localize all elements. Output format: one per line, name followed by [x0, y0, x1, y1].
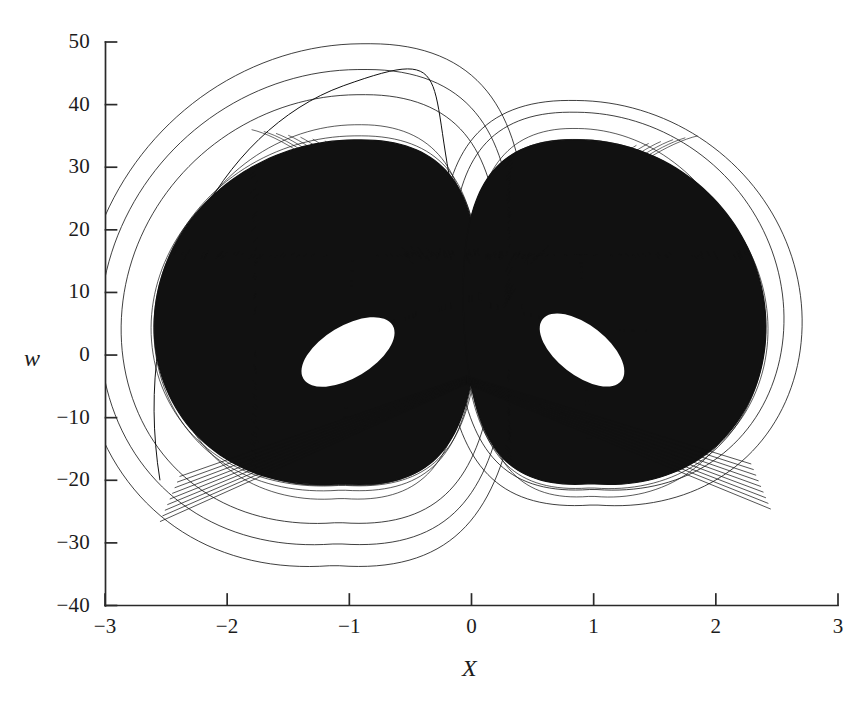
y-axis-tick-label: 20	[12, 217, 90, 242]
y-axis-title: w	[24, 345, 40, 372]
x-axis-tick-label: −1	[309, 614, 389, 639]
x-axis-tick-label: 1	[554, 614, 634, 639]
x-axis-tick-label: −2	[187, 614, 267, 639]
x-axis-tick-label: −3	[65, 614, 145, 639]
y-axis-tick-label: −30	[12, 530, 90, 555]
x-axis-tick-label: 0	[432, 614, 512, 639]
y-axis-ticks	[106, 42, 117, 606]
x-axis-title: X	[462, 655, 477, 682]
x-axis-ticks	[105, 594, 838, 605]
y-axis-tick-label: 10	[12, 279, 90, 304]
y-axis-tick-label: 30	[12, 154, 90, 179]
attractor-plot	[0, 0, 862, 710]
figure-root: −40−30−20−1001020304050 −3−2−10123 w X	[0, 0, 862, 710]
y-axis-tick-label: −20	[12, 467, 90, 492]
y-axis-tick-label: 50	[12, 29, 90, 54]
x-axis-tick-label: 3	[798, 614, 862, 639]
y-axis-tick-label: 40	[12, 92, 90, 117]
attractor-trajectory-layer	[80, 44, 802, 567]
y-axis-tick-label: −10	[12, 405, 90, 430]
x-axis-tick-label: 2	[676, 614, 756, 639]
